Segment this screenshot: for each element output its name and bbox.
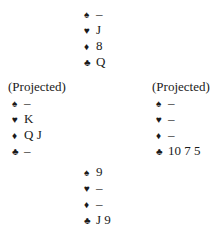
- south-spades-cards: 9: [96, 164, 103, 180]
- heart-icon: ♥: [12, 112, 24, 128]
- spade-icon: ♠: [84, 7, 96, 23]
- south-hand: ♠9 ♥– ♦– ♣J 9: [84, 164, 111, 228]
- club-icon: ♣: [12, 144, 24, 160]
- west-diamonds: ♦Q J: [8, 127, 66, 143]
- spade-icon: ♠: [12, 96, 24, 112]
- heart-icon: ♥: [156, 112, 168, 128]
- east-hand: (Projected) ♠– ♥– ♦– ♣10 7 5: [152, 79, 210, 159]
- north-hearts: ♥J: [84, 22, 105, 38]
- south-clubs-cards: J 9: [96, 212, 111, 228]
- east-hearts-cards: –: [168, 111, 175, 127]
- west-diamonds-cards: Q J: [24, 127, 42, 143]
- east-label: (Projected): [152, 79, 210, 95]
- club-icon: ♣: [84, 213, 96, 229]
- east-hearts: ♥–: [152, 111, 210, 127]
- north-hand: ♠– ♥J ♦8 ♣Q: [84, 6, 105, 70]
- south-clubs: ♣J 9: [84, 212, 111, 228]
- east-diamonds-cards: –: [168, 127, 175, 143]
- east-spades-cards: –: [168, 95, 175, 111]
- heart-icon: ♥: [84, 181, 96, 197]
- north-spades: ♠–: [84, 6, 105, 22]
- heart-icon: ♥: [84, 23, 96, 39]
- north-spades-cards: –: [96, 6, 103, 22]
- east-diamonds: ♦–: [152, 127, 210, 143]
- south-hearts-cards: –: [96, 180, 103, 196]
- north-clubs-cards: Q: [96, 54, 105, 70]
- south-diamonds-cards: –: [96, 196, 103, 212]
- club-icon: ♣: [84, 55, 96, 71]
- north-diamonds-cards: 8: [96, 38, 103, 54]
- north-hearts-cards: J: [96, 22, 101, 38]
- diamond-icon: ♦: [156, 128, 168, 144]
- west-hand: (Projected) ♠– ♥K ♦Q J ♣–: [8, 79, 66, 159]
- north-clubs: ♣Q: [84, 54, 105, 70]
- west-spades-cards: –: [24, 95, 31, 111]
- west-hearts: ♥K: [8, 111, 66, 127]
- west-hearts-cards: K: [24, 111, 33, 127]
- west-clubs: ♣–: [8, 143, 66, 159]
- diamond-icon: ♦: [12, 128, 24, 144]
- north-diamonds: ♦8: [84, 38, 105, 54]
- south-diamonds: ♦–: [84, 196, 111, 212]
- west-clubs-cards: –: [24, 143, 31, 159]
- diamond-icon: ♦: [84, 197, 96, 213]
- south-spades: ♠9: [84, 164, 111, 180]
- diamond-icon: ♦: [84, 39, 96, 55]
- club-icon: ♣: [156, 144, 168, 160]
- east-clubs: ♣10 7 5: [152, 143, 210, 159]
- west-spades: ♠–: [8, 95, 66, 111]
- south-hearts: ♥–: [84, 180, 111, 196]
- spade-icon: ♠: [156, 96, 168, 112]
- east-clubs-cards: 10 7 5: [168, 143, 201, 159]
- west-label: (Projected): [8, 79, 66, 95]
- spade-icon: ♠: [84, 165, 96, 181]
- east-spades: ♠–: [152, 95, 210, 111]
